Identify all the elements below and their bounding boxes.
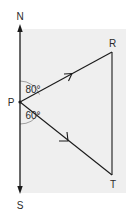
point-P-label: P xyxy=(8,97,15,108)
point-R-label: R xyxy=(109,38,116,49)
south-label: S xyxy=(17,200,24,211)
point-P-dot xyxy=(18,100,21,103)
point-T-label: T xyxy=(110,179,116,190)
north-arrowhead-icon xyxy=(17,24,22,32)
angle-label-60: 60° xyxy=(25,110,40,121)
angle-label-80: 80° xyxy=(25,84,40,95)
bearings-diagram: N S P R T 80° 60° xyxy=(0,0,126,220)
north-label: N xyxy=(16,11,23,22)
